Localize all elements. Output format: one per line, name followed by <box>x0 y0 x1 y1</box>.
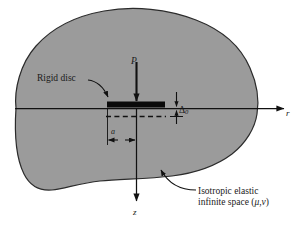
rigid-disc-schematic-figure: Rigid disc P Δ0 a r z Isotropic elastic … <box>0 0 303 230</box>
load-label-P: P <box>131 56 137 67</box>
axis-label-r: r <box>286 108 290 118</box>
axis-label-z: z <box>133 207 137 217</box>
medium-label-suffix: ) <box>266 197 269 207</box>
medium-label-line2: infinite space (μ,ν) <box>198 197 269 208</box>
rigid-disc-label: Rigid disc <box>37 73 76 84</box>
rigid-disc-bar <box>107 102 165 108</box>
elastic-medium-label: Isotropic elastic infinite space (μ,ν) <box>198 186 269 207</box>
radius-label-a: a <box>111 128 115 137</box>
rigid-disc <box>107 102 165 108</box>
delta-subscript: 0 <box>185 108 188 115</box>
medium-label-prefix: infinite space ( <box>198 197 254 207</box>
medium-label-line1: Isotropic elastic <box>198 186 258 196</box>
settlement-label-delta-zero: Δ0 <box>179 105 188 116</box>
